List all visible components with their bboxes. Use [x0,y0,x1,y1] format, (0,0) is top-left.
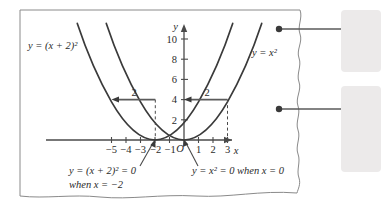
y-tick-label: 2 [172,115,177,126]
caption-right: y = x² = 0 when x = 0 [191,165,285,176]
x-tick-labels: −5 −4 −3 −2 −1 1 2 3 [106,144,230,155]
x-tick-label: 3 [225,144,230,155]
x-tick-label: −4 [120,144,132,155]
callout-panel-top[interactable] [341,10,381,72]
callout-bullet-bottom [276,106,282,112]
x-tick-label: −3 [135,144,146,155]
caption-left-line1: y = (x + 2)² = 0 [68,165,137,177]
y-axis-label: y [172,21,178,32]
y-tick-label: 4 [172,94,178,105]
x-tick-label: −5 [106,144,117,155]
curve-label-left: y = (x + 2)² [27,40,78,52]
x-axis-label: x [233,145,239,156]
x-tick-label: −1 [165,144,176,155]
y-tick-label: 6 [172,74,177,85]
caption-left-line2: when x = −2 [69,179,124,190]
x-tick-label: 1 [196,144,201,155]
callout-bullet-top [276,26,282,32]
callout-panel-bottom[interactable] [341,86,381,172]
x-tick-label: 2 [210,144,215,155]
shift-arrow-right-label: 2 [204,87,209,98]
y-tick-label: 10 [167,34,178,45]
y-tick-label: 8 [172,54,177,65]
curve-label-right: y = x² [251,47,278,58]
origin-label: O [176,143,184,154]
shift-arrow-left-label: 2 [131,87,136,98]
x-tick-label: −2 [150,144,161,155]
